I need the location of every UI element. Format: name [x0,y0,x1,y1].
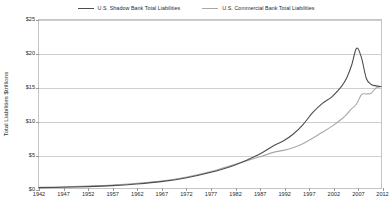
y-axis-title: Total Liabilities $trillions [0,19,13,189]
legend-swatch-shadow-bank [78,8,94,9]
x-axis-tick-label: 1947 [57,192,69,198]
x-axis-tick-label: 1987 [254,192,266,198]
chart-container: U.S. Shadow Bank Total Liabilities U.S. … [0,0,392,215]
x-axis-tick-label: 1957 [106,192,118,198]
x-axis-tick-label: 2012 [376,192,388,198]
x-axis-tick-label: 1952 [82,192,94,198]
legend-label-commercial-bank: U.S. Commercial Bank Total Liabilities [222,6,314,11]
x-axis-tick-label: 1977 [205,192,217,198]
x-axis-tick-label: 2002 [328,192,340,198]
y-axis-tick-label: $10 [26,119,35,125]
y-axis-tick-label: $20 [26,51,35,57]
x-axis-tick-label: 1982 [229,192,241,198]
y-axis-tick-label: $25 [26,17,35,23]
y-axis-tick-label: $15 [26,85,35,91]
y-axis-tick-label: $5 [29,153,35,159]
data-series-layer [39,20,381,188]
legend-item-shadow-bank: U.S. Shadow Bank Total Liabilities [78,6,181,11]
legend-item-commercial-bank: U.S. Commercial Bank Total Liabilities [202,6,314,11]
x-axis-tick-label: 1997 [303,192,315,198]
x-axis-tick-label: 1962 [131,192,143,198]
x-axis-tick-label: 1942 [33,192,45,198]
x-axis-tick-label: 1992 [278,192,290,198]
x-axis-tick-label: 1972 [180,192,192,198]
legend-label-shadow-bank: U.S. Shadow Bank Total Liabilities [98,6,181,11]
series-line [39,48,381,188]
plot-area: $0$5$10$15$20$25 19421947195219571962196… [38,19,382,189]
chart-legend: U.S. Shadow Bank Total Liabilities U.S. … [0,2,392,15]
legend-swatch-commercial-bank [202,8,218,9]
x-axis-tick-label: 2007 [352,192,364,198]
y-axis-title-text: Total Liabilities $trillions [3,72,9,137]
x-axis-tick-label: 1967 [156,192,168,198]
